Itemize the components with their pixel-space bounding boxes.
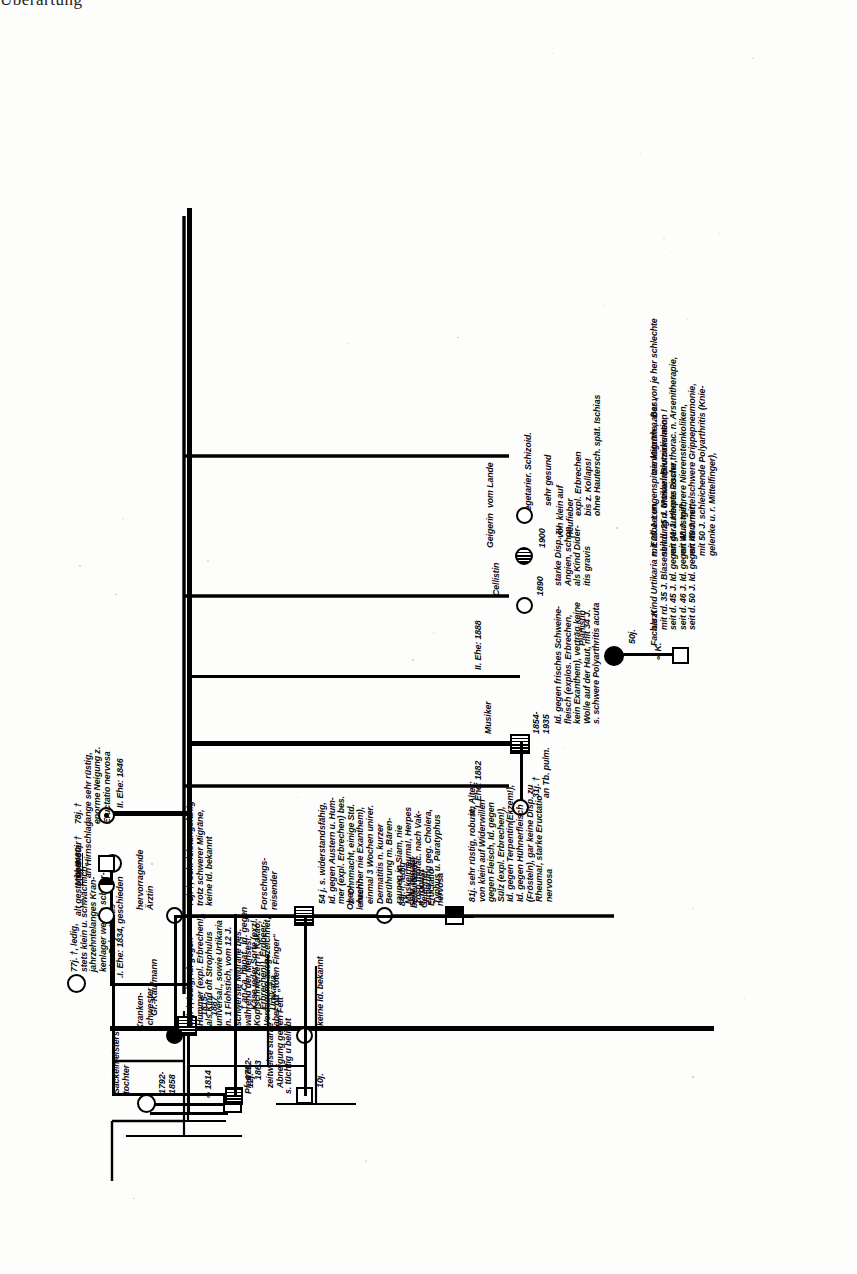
figure-page: Überartung: [0, 0, 857, 1274]
running-head: Überartung: [0, 0, 260, 14]
paper-speck: [457, 337, 458, 338]
marriage-1814: ∞ 1814: [204, 1070, 214, 1098]
note-kind12: zeitweise starke Abneigung gegen Fett: [266, 997, 285, 1088]
paper-speck: [692, 1076, 694, 1078]
label-vom-lande: vom Lande: [486, 462, 496, 508]
paper-speck: [562, 747, 563, 748]
person-symbol-altgestorben: [98, 908, 115, 925]
note-gelehrter: 81j. sehr rüstig, robust, von klein auf …: [468, 785, 554, 902]
label-aerztin: hervorragende Ärztin: [136, 850, 155, 910]
note-vegetarier: Vegetarier. Schizoid.: [524, 432, 534, 516]
paper-speck: [349, 176, 350, 177]
line-ehe1888: [190, 675, 520, 678]
note-migraene: Migräne: [74, 853, 84, 886]
years-kind10: 10j.: [316, 1073, 326, 1088]
paper-speck: [450, 787, 451, 788]
note-forschungsreisender: 54 j. s. widerstandsfähig, Id. gegen Aus…: [318, 796, 443, 904]
person-symbol-notar: [98, 856, 115, 873]
line-kaufmann-spine: [114, 1026, 714, 1031]
line-musiker-branch: [190, 741, 520, 746]
label-geigerin: Geigerin: [486, 513, 496, 548]
note-frau1846: 78j. † lange sehr rüstig, enorme Neigung…: [74, 747, 112, 824]
note-pianistin-3: nie Migräne, aber von je her schlechte B…: [650, 318, 669, 474]
label-saeckelmeisterstochter: Säckelmeisters- tochter: [112, 1029, 131, 1095]
paper-speck: [719, 233, 720, 234]
paper-speck: [115, 594, 116, 595]
note-gelehrter-2: im Alter:: [468, 782, 478, 816]
person-symbol-pianistin: [604, 646, 624, 666]
years-pianistin: 50j.: [628, 629, 638, 644]
paper-speck: [365, 1160, 367, 1162]
pedigree-canvas-rotated: Säckelmeisters- tochter1792- 1858Pfarrer…: [54, 36, 794, 1216]
label-krankenschwester: Kranken- schwester: [136, 988, 155, 1030]
label-cellistin: Cellistin: [492, 563, 502, 596]
note-pianistin-4: expl. Erbrechen bis z. Kollaps! ohne Hau…: [574, 395, 603, 516]
label-facharzt: Facharzt: [650, 611, 660, 646]
line-ehe1846: [110, 811, 190, 816]
paper-speck: [752, 58, 754, 60]
note-aerztin: 71j. †, sehr leistungsfähig trotz schwer…: [186, 801, 215, 906]
paper-speck: [493, 95, 494, 96]
line-parents-marriage: [187, 1026, 190, 1106]
person-symbol-facharzt: [672, 648, 689, 665]
marriage-ehe2-1888: II. Ehe: 1888: [474, 620, 484, 670]
marriage-ehe2-1846: II. Ehe: 1846: [116, 758, 126, 808]
line-pianistin-spouse: [614, 653, 674, 656]
paper-speck: [151, 864, 152, 865]
line-right-spine: [174, 915, 474, 918]
paper-speck: [243, 1074, 245, 1076]
note-geigerin: von klein auf Heufieber: [556, 486, 575, 538]
paper-speck: [616, 527, 618, 529]
person-symbol-vomlande: [516, 508, 533, 525]
person-symbol-kind77: [67, 975, 86, 994]
line-keine-id: [304, 916, 307, 1036]
paper-speck: [744, 998, 745, 999]
note-facharzt: ∞ K.: [654, 643, 664, 660]
line-kind10: [304, 1034, 307, 1096]
pedigree-canvas: Säckelmeisters- tochter1792- 1858Pfarrer…: [54, 36, 794, 1216]
years-saeckelmeisterstochter: 1792- 1858: [158, 1071, 177, 1094]
note-keine-id: keine Id. bekannt: [316, 956, 326, 1026]
label-musiker: Musiker: [484, 701, 494, 734]
years-cellistin: 1890: [536, 576, 546, 596]
paper-speck: [412, 659, 414, 661]
line-krankenschwester: [174, 916, 177, 1036]
note-pfarrer: s. tüchtig u beliebt: [284, 1018, 294, 1094]
paper-speck: [297, 797, 298, 798]
person-symbol-geigerin: [515, 547, 533, 565]
label-pianistin: Pianistin: [578, 610, 588, 646]
line-kind12: [234, 914, 237, 1096]
years-geigerin: 1900: [538, 528, 548, 548]
paper-speck: [79, 565, 81, 567]
years-musiker: 1854- 1935: [532, 711, 551, 734]
person-symbol-saeckel: [137, 1095, 156, 1114]
note-vom-lande: sehr gesund: [544, 455, 554, 506]
person-symbol-migraene: [98, 878, 115, 895]
person-symbol-cellistin: [516, 598, 533, 615]
years-kind12: 12j.: [246, 1073, 256, 1088]
label-forschungsreisender: Forschungs- reisender: [260, 858, 279, 910]
line-ehe1834-drop: [110, 983, 190, 986]
